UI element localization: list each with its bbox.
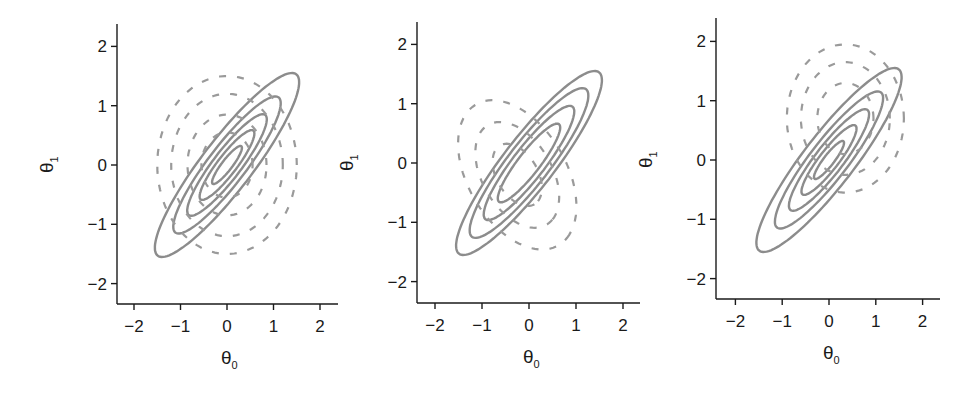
y-tick-label: 0: [398, 154, 407, 173]
dashed-contour-3: [458, 100, 576, 249]
x-tick-label: −1: [773, 312, 792, 331]
axes: −2−1012−2−1012θ0θ1: [635, 18, 940, 366]
y-tick-label: −2: [687, 270, 706, 289]
x-axis-label: θ0: [523, 346, 540, 370]
solid-contours: [756, 68, 901, 252]
x-tick-label: −2: [726, 312, 745, 331]
y-tick-label: 1: [398, 95, 407, 114]
y-tick-label: −1: [88, 215, 107, 234]
x-tick-label: 0: [222, 317, 231, 336]
x-axis-label: θ0: [221, 347, 238, 371]
x-axis-label: θ0: [823, 342, 840, 366]
y-tick-label: −2: [388, 273, 407, 292]
x-tick-label: 2: [918, 312, 927, 331]
y-axis-label: θ1: [36, 156, 60, 173]
y-tick-label: 2: [98, 37, 107, 56]
dashed-contour-2: [188, 115, 267, 216]
solid-contour-2: [802, 125, 857, 195]
y-axis-label: θ1: [635, 151, 659, 168]
axes: −2−1012−2−1012θ0θ1: [36, 24, 338, 371]
plot-panel-1: −2−1012−2−1012θ0θ1: [36, 24, 338, 371]
y-tick-label: 1: [98, 97, 107, 116]
y-tick-label: −1: [687, 210, 706, 229]
dashed-contour-4: [157, 76, 296, 254]
x-tick-label: −2: [425, 316, 444, 335]
y-tick-label: 1: [697, 92, 706, 111]
dashed-contours: [458, 100, 576, 249]
plot-panel-3: −2−1012−2−1012θ0θ1: [635, 18, 940, 366]
solid-contour-4: [173, 97, 280, 234]
solid-contour-5: [756, 68, 901, 252]
y-axis-label: θ1: [336, 154, 360, 171]
solid-contour-4: [456, 71, 602, 255]
solid-contour-1: [212, 146, 242, 184]
x-tick-label: 0: [524, 316, 533, 335]
y-tick-label: 2: [697, 32, 706, 51]
y-tick-label: 2: [398, 35, 407, 54]
x-tick-label: 1: [269, 317, 278, 336]
x-tick-label: −1: [472, 316, 491, 335]
x-tick-label: 1: [871, 312, 880, 331]
x-tick-label: −2: [124, 317, 143, 336]
contour-figure: −2−1012−2−1012θ0θ1−2−1012−2−1012θ0θ1−2−1…: [0, 0, 979, 400]
x-tick-label: 1: [571, 316, 580, 335]
plot-panel-2: −2−1012−2−1012θ0θ1: [336, 22, 640, 370]
y-tick-label: −2: [88, 275, 107, 294]
solid-contour-3: [470, 88, 589, 238]
solid-contour-5: [155, 73, 299, 257]
solid-contour-4: [775, 92, 883, 229]
solid-contours: [155, 73, 299, 257]
y-tick-label: 0: [697, 151, 706, 170]
x-tick-label: 2: [618, 316, 627, 335]
solid-contours: [456, 71, 602, 255]
solid-contour-2: [200, 130, 255, 200]
y-tick-label: 0: [98, 156, 107, 175]
x-tick-label: 2: [315, 317, 324, 336]
y-tick-label: −1: [388, 213, 407, 232]
figure: −2−1012−2−1012θ0θ1−2−1012−2−1012θ0θ1−2−1…: [0, 0, 979, 400]
x-tick-label: 0: [824, 312, 833, 331]
x-tick-label: −1: [171, 317, 190, 336]
dashed-contours: [157, 76, 296, 254]
